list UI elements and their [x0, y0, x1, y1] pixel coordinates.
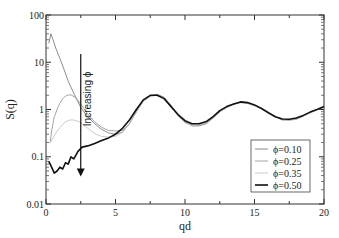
arrow-head-icon	[77, 169, 85, 177]
annotation: Increasing ϕ	[77, 54, 93, 177]
structure-factor-chart: 05101520 0.010.1110100 Increasing ϕ qd S…	[0, 0, 339, 238]
y-tick-label: 0.1	[32, 151, 45, 162]
x-tick-label: 10	[180, 207, 190, 218]
legend-label-1: ϕ=0.10	[273, 144, 301, 155]
y-tick-label: 10	[34, 57, 44, 68]
x-axis-label: qd	[179, 219, 191, 233]
y-tick-label: 100	[29, 10, 44, 21]
legend-label-2: ϕ=0.25	[273, 156, 301, 167]
x-tick-label: 5	[113, 207, 118, 218]
y-tick-label: 0.01	[27, 199, 45, 210]
y-tick-label: 1	[39, 104, 44, 115]
y-axis-label: S(q)	[3, 99, 17, 120]
x-tick-label: 20	[319, 207, 329, 218]
x-tick-label: 15	[250, 207, 260, 218]
legend: ϕ=0.10ϕ=0.25ϕ=0.35ϕ=0.50	[251, 140, 310, 192]
x-tick-label: 0	[44, 207, 49, 218]
legend-label-3: ϕ=0.35	[273, 168, 301, 179]
legend-label-4: ϕ=0.50	[273, 180, 301, 191]
increasing-phi-label: Increasing ϕ	[82, 71, 93, 126]
